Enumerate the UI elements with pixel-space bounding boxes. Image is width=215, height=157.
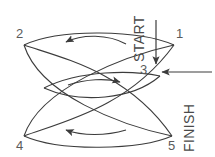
- node-label-1: 1: [176, 26, 183, 41]
- node-label-4: 4: [16, 138, 23, 153]
- node-label-2: 2: [16, 26, 23, 41]
- finish-label: FINISH: [181, 104, 197, 152]
- top-flow-arrow: [66, 36, 126, 44]
- curve-4-to-1-upper: [24, 45, 174, 136]
- bottom-flow-arrow: [66, 130, 126, 135]
- curve-inner-lower: [24, 45, 174, 136]
- start-marker: START: [131, 15, 156, 64]
- curve-4-to-1-lower: [24, 136, 172, 147]
- path-diagram: START FINISH 2 1 3 4 5: [0, 0, 215, 157]
- curve-2-to-5-lower: [24, 45, 172, 136]
- curve-inner-upper: [24, 45, 172, 136]
- middle-flow-arrow: [68, 80, 120, 85]
- node-label-5: 5: [168, 138, 175, 153]
- curve-2-to-5-upper: [24, 33, 174, 45]
- diagram-canvas: START FINISH 2 1 3 4 5: [0, 0, 215, 157]
- node-label-3: 3: [140, 62, 147, 77]
- start-label: START: [131, 15, 147, 62]
- curve-group: [24, 33, 174, 147]
